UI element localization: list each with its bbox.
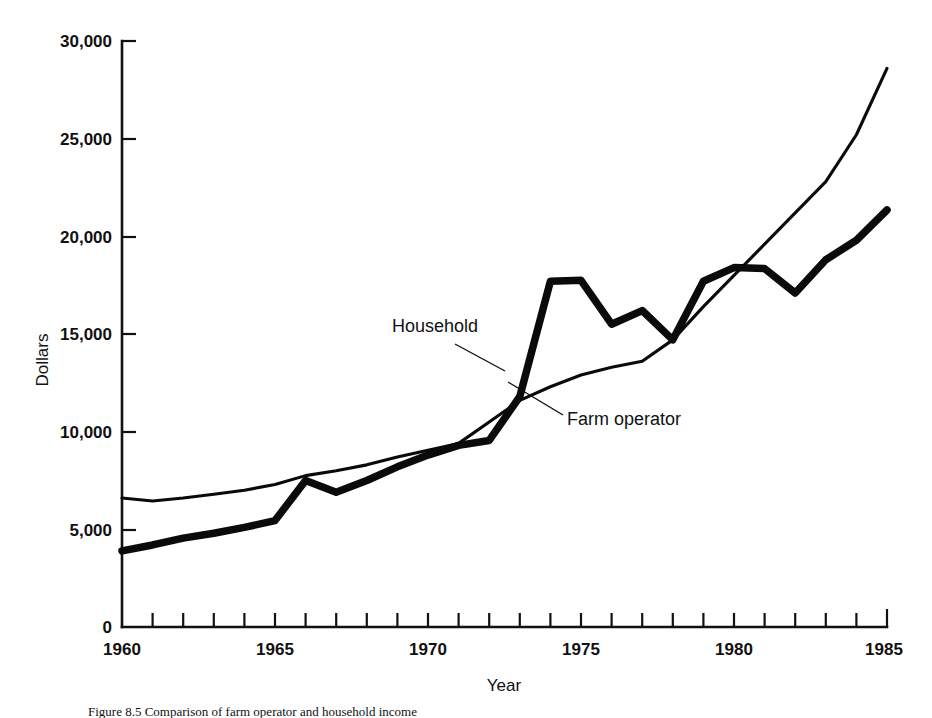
annotation-label-household: Household (392, 316, 478, 336)
y-tick-label-0: 0 (103, 618, 112, 637)
y-tick-label-5000: 5,000 (69, 521, 112, 540)
x-tick-label-1970: 1970 (409, 640, 447, 659)
figure-container: 30,000 25,000 20,000 15,000 10,000 5,000… (0, 0, 932, 718)
figure-caption-text: Figure 8.5 Comparison of farm operator a… (88, 704, 417, 718)
x-tick-label-1985: 1985 (865, 640, 903, 659)
y-tick-label-10000: 10,000 (60, 423, 112, 442)
x-tick-label-1965: 1965 (256, 640, 294, 659)
y-tick-label-30000: 30,000 (60, 32, 112, 51)
y-tick-label-15000: 15,000 (60, 325, 112, 344)
figure-caption: Figure 8.5 Comparison of farm operator a… (88, 702, 417, 718)
y-tick-label-20000: 20,000 (60, 228, 112, 247)
annotation-label-farm-operator: Farm operator (567, 409, 681, 429)
x-axis-title: Year (487, 676, 522, 695)
chart-background (0, 0, 932, 718)
x-tick-label-1980: 1980 (715, 640, 753, 659)
x-tick-label-1975: 1975 (562, 640, 600, 659)
y-tick-label-25000: 25,000 (60, 130, 112, 149)
x-tick-label-1960: 1960 (103, 640, 141, 659)
y-axis-title: Dollars (33, 334, 52, 387)
income-comparison-line-chart: 30,000 25,000 20,000 15,000 10,000 5,000… (0, 0, 932, 718)
